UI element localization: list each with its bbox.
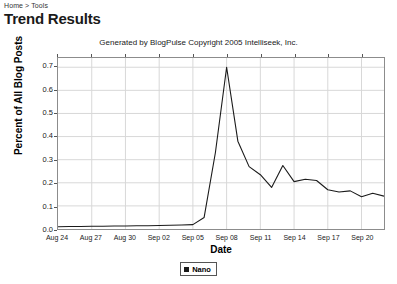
x-tick-label: Sep 11 <box>250 234 272 242</box>
trend-chart-figure: Generated by BlogPulse Copyright 2005 In… <box>0 32 397 284</box>
y-tick-label: 0.1 <box>43 203 53 211</box>
legend-label-nano: Nano <box>192 265 211 274</box>
x-tick-label: Aug 24 <box>46 234 68 242</box>
x-tick-mark <box>328 54 329 57</box>
y-tick-label: 0.2 <box>43 179 53 187</box>
x-tick-mark <box>295 54 296 57</box>
chart-legend: Nano <box>0 257 397 276</box>
x-axis-ticks: Aug 24Aug 27Aug 30Sep 02Sep 05Sep 08Sep … <box>57 57 385 230</box>
x-tick-mark <box>125 54 126 57</box>
x-tick-label: Sep 08 <box>216 234 238 242</box>
chart-caption: Generated by BlogPulse Copyright 2005 In… <box>0 38 397 48</box>
y-axis-label: Percent of All Blog Posts <box>13 16 24 176</box>
x-tick-label: Sep 20 <box>351 234 373 242</box>
y-tick-label: 0.5 <box>43 109 53 117</box>
x-tick-mark <box>91 54 92 57</box>
y-tick-mark <box>54 230 57 231</box>
x-tick-label: Sep 02 <box>148 234 170 242</box>
x-tick-label: Sep 05 <box>182 234 204 242</box>
y-tick-label: 0.6 <box>43 86 53 94</box>
legend-swatch-nano <box>184 267 189 272</box>
x-axis-label: Date <box>57 244 385 255</box>
x-tick-mark <box>227 54 228 57</box>
y-tick-label: 0.3 <box>43 156 53 164</box>
x-tick-label: Sep 14 <box>283 234 305 242</box>
x-tick-label: Sep 17 <box>317 234 339 242</box>
x-tick-label: Aug 30 <box>114 234 136 242</box>
x-tick-mark <box>57 54 58 57</box>
x-tick-mark <box>362 54 363 57</box>
x-tick-mark <box>261 54 262 57</box>
y-tick-label: 0.4 <box>43 132 53 140</box>
x-tick-mark <box>193 54 194 57</box>
y-tick-label: 0.0 <box>43 226 53 234</box>
x-tick-mark <box>159 54 160 57</box>
x-tick-label: Aug 27 <box>80 234 102 242</box>
breadcrumb[interactable]: Home > Tools <box>4 1 48 10</box>
y-tick-label: 0.7 <box>43 62 53 70</box>
legend-box: Nano <box>180 262 217 276</box>
